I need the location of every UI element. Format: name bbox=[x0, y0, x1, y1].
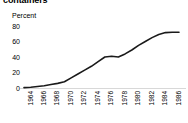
x-tick-label: 1982 bbox=[148, 91, 155, 105]
x-axis-ticks: 1964196619681970197219741976197819801982… bbox=[0, 0, 188, 123]
x-tick-label: 1978 bbox=[121, 91, 128, 105]
x-tick-label: 1964 bbox=[27, 91, 34, 105]
x-tick-label: 1968 bbox=[53, 91, 60, 105]
x-tick-label: 1976 bbox=[107, 91, 114, 105]
x-tick-label: 1986 bbox=[175, 91, 182, 105]
x-tick-label: 1970 bbox=[67, 91, 74, 105]
chart-container: containers Percent 806040200 19641966196… bbox=[0, 0, 188, 123]
x-tick-label: 1984 bbox=[161, 91, 168, 105]
x-tick-label: 1972 bbox=[80, 91, 87, 105]
x-tick-label: 1980 bbox=[134, 91, 141, 105]
x-tick-label: 1966 bbox=[40, 91, 47, 105]
x-tick-label: 1974 bbox=[94, 91, 101, 105]
